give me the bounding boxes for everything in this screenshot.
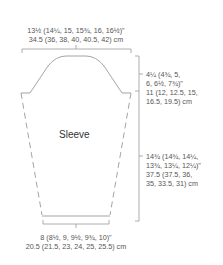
height-bracket <box>135 56 143 221</box>
piece-label: Sleeve <box>59 129 90 140</box>
cap-height-line1: 4¼ (4¾, 5, <box>146 70 198 79</box>
cuff-width-label: 8 (8½, 9, 9½, 9¾, 10)" 20.5 (21.5, 23, 2… <box>10 233 142 251</box>
cap-height-label: 4¼ (4¾, 5, 6, 6½, 7¾)" 11 (12, 12.5, 15,… <box>146 70 198 106</box>
top-width-label: 13½ (14¼, 15, 15¾, 16, 16½)" 34.5 (36, 3… <box>10 26 142 44</box>
top-width-bracket <box>22 45 131 53</box>
sleeve-cap-outline <box>21 56 131 93</box>
top-width-cm: 34.5 (36, 38, 40, 40.5, 42) cm <box>10 35 142 44</box>
sleeve-side-seams <box>21 93 131 215</box>
cuff-width-cm: 20.5 (21.5, 23, 24, 25, 25.5) cm <box>10 242 142 251</box>
cuff-width-inches: 8 (8½, 9, 9½, 9¾, 10)" <box>10 233 142 242</box>
sleeve-length-line2: 13¾, 13¼, 12¼)" <box>146 161 201 170</box>
cap-height-line4: 16.5, 19.5) cm <box>146 97 198 106</box>
top-width-inches: 13½ (14¼, 15, 15¾, 16, 16½)" <box>10 26 142 35</box>
cap-height-line3: 11 (12, 12.5, 15, <box>146 88 198 97</box>
sleeve-length-line1: 14¾ (14¾, 14¼, <box>146 152 201 161</box>
sleeve-length-label: 14¾ (14¾, 14¼, 13¾, 13¼, 12¼)" 37.5 (37.… <box>146 152 201 188</box>
sleeve-length-line4: 35, 33.5, 31) cm <box>146 179 201 188</box>
cuff-width-bracket <box>43 220 109 228</box>
sleeve-length-line3: 37.5 (37.5, 36, <box>146 170 201 179</box>
cap-height-line2: 6, 6½, 7¾)" <box>146 79 198 88</box>
